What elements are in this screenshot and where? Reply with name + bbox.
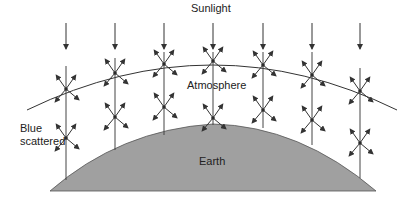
sky-scattering-diagram: Sunlight Atmosphere Blue scattered Earth <box>0 0 417 199</box>
sunlight-label: Sunlight <box>191 2 231 15</box>
blue-scattered-label-line1: Blue <box>20 122 42 135</box>
diagram-canvas <box>0 0 417 199</box>
earth-label: Earth <box>199 155 225 168</box>
blue-scattered-label-line2: scattered <box>20 135 65 148</box>
atmosphere-label: Atmosphere <box>187 79 246 92</box>
sunlight-arrows <box>66 23 360 49</box>
